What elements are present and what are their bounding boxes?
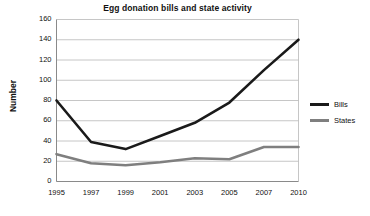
legend-label-bills: Bills <box>334 100 348 109</box>
series-lines <box>57 40 299 166</box>
legend: Bills States <box>310 96 368 128</box>
legend-item-bills[interactable]: Bills <box>310 96 368 112</box>
legend-swatch-states <box>310 119 329 122</box>
legend-item-states[interactable]: States <box>310 112 368 128</box>
legend-label-states: States <box>334 116 355 125</box>
gridlines <box>57 20 299 182</box>
chart-container: Egg donation bills and state activity Nu… <box>0 0 370 216</box>
legend-swatch-bills <box>310 103 329 106</box>
